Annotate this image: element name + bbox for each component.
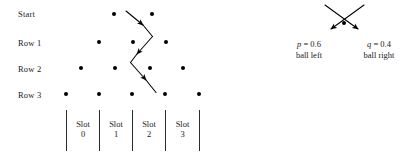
legend-left-value: = 0.6 xyxy=(301,39,321,49)
ball-path-segment-2 xyxy=(143,25,153,37)
legend-left-caption: ball left xyxy=(296,50,322,60)
peg-row1-2 xyxy=(164,40,168,44)
galton-board-diagram: Start Row 1 Row 2 Row 3 xyxy=(0,0,412,159)
peg-start-1 xyxy=(150,12,154,16)
ball-path-segment-1 xyxy=(126,11,143,25)
slot-label-2-index: 2 xyxy=(147,129,151,139)
peg-row2-1 xyxy=(113,66,117,70)
slot-label-0-index: 0 xyxy=(81,129,85,139)
peg-row2-0 xyxy=(79,66,83,70)
slot-label-0: Slot 0 xyxy=(68,119,98,140)
ball-path-segment-5 xyxy=(131,63,147,81)
peg-row1-1 xyxy=(131,40,135,44)
legend-arrows xyxy=(325,5,364,29)
slot-label-1: Slot 1 xyxy=(101,119,131,140)
peg-start-0 xyxy=(112,12,116,16)
row-label-start: Start xyxy=(18,9,35,19)
legend-right-caption: ball right xyxy=(364,50,395,60)
ball-path-segment-4 xyxy=(131,54,138,63)
peg-row2-3 xyxy=(181,66,185,70)
peg-row3-0 xyxy=(64,92,68,96)
row-label-row-2: Row 2 xyxy=(18,64,41,74)
slot-label-1-top: Slot xyxy=(109,119,123,129)
right-branch-arrow xyxy=(325,5,358,29)
peg-row3-4 xyxy=(197,92,201,96)
row-label-row-3: Row 3 xyxy=(18,90,41,100)
slot-label-3: Slot 3 xyxy=(167,119,198,140)
slot-label-3-top: Slot xyxy=(176,119,190,129)
path-overlay xyxy=(0,0,412,159)
slot-label-0-top: Slot xyxy=(76,119,90,129)
ball-path-segment-3 xyxy=(137,37,153,55)
peg-row3-1 xyxy=(97,92,101,96)
legend-peg xyxy=(342,21,346,25)
slot-label-2-top: Slot xyxy=(142,119,156,129)
ball-path xyxy=(126,11,156,93)
row-label-row-1: Row 1 xyxy=(18,38,41,48)
legend-right-value: = 0.4 xyxy=(371,39,391,49)
peg-row3-2 xyxy=(130,92,134,96)
legend-entry-right: q = 0.4 ball right xyxy=(348,39,410,60)
slot-label-2: Slot 2 xyxy=(134,119,164,140)
slot-label-1-index: 1 xyxy=(114,129,118,139)
left-branch-arrow xyxy=(331,5,364,29)
slot-label-3-index: 3 xyxy=(180,129,184,139)
peg-row1-0 xyxy=(97,40,101,44)
legend-entry-left: p = 0.6 ball left xyxy=(278,39,340,60)
peg-row2-2 xyxy=(148,66,152,70)
peg-row3-3 xyxy=(163,92,167,96)
ball-path-segment-6 xyxy=(146,80,156,93)
